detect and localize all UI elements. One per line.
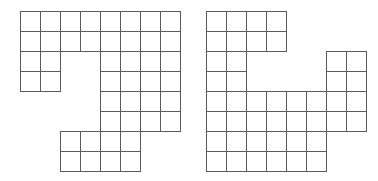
grid-cell — [247, 112, 267, 132]
grid-cell — [41, 32, 61, 52]
grid-cell — [347, 72, 367, 92]
grid-cell — [227, 132, 247, 152]
grid-cell — [141, 52, 161, 72]
grid-cell — [287, 152, 307, 172]
grid-cell — [307, 92, 327, 112]
grid-cell — [41, 12, 61, 32]
grid-cell — [21, 32, 41, 52]
grid-cell — [121, 72, 141, 92]
grid-cell — [267, 12, 287, 32]
grid-cell — [121, 12, 141, 32]
left-shape-grid — [20, 11, 181, 172]
grid-cell — [267, 112, 287, 132]
grid-cell — [207, 72, 227, 92]
grid-cell — [121, 32, 141, 52]
grid-cell — [267, 32, 287, 52]
grid-cell — [101, 72, 121, 92]
grid-cell — [227, 72, 247, 92]
grid-cell — [81, 132, 101, 152]
grid-cell — [247, 92, 267, 112]
grid-cell — [227, 92, 247, 112]
grid-cell — [227, 112, 247, 132]
grid-cell — [161, 52, 181, 72]
grid-cell — [101, 132, 121, 152]
grid-cell — [141, 72, 161, 92]
grid-cell — [287, 112, 307, 132]
grid-cell — [81, 32, 101, 52]
grid-cell — [41, 52, 61, 72]
grid-cell — [161, 32, 181, 52]
grid-cell — [121, 152, 141, 172]
grid-cell — [227, 12, 247, 32]
grid-cell — [227, 152, 247, 172]
grid-cell — [61, 12, 81, 32]
grid-cell — [287, 132, 307, 152]
grid-cell — [207, 152, 227, 172]
grid-cell — [307, 152, 327, 172]
grid-cell — [141, 92, 161, 112]
grid-cell — [101, 12, 121, 32]
grid-cell — [21, 12, 41, 32]
grid-cell — [207, 92, 227, 112]
grid-cell — [327, 92, 347, 112]
grid-cell — [247, 152, 267, 172]
grid-cell — [61, 152, 81, 172]
grid-cell — [327, 112, 347, 132]
grid-cell — [207, 32, 227, 52]
grid-cell — [327, 52, 347, 72]
grid-cell — [141, 32, 161, 52]
grid-cell — [101, 112, 121, 132]
grid-cell — [267, 152, 287, 172]
grid-cell — [307, 132, 327, 152]
grid-cell — [101, 52, 121, 72]
grid-cell — [121, 112, 141, 132]
right-shape-grid — [206, 11, 367, 172]
grid-cell — [207, 52, 227, 72]
grid-cell — [207, 12, 227, 32]
grid-cell — [121, 52, 141, 72]
grid-cell — [61, 132, 81, 152]
grid-cell — [141, 112, 161, 132]
grid-cell — [161, 72, 181, 92]
grid-cell — [207, 132, 227, 152]
left-shape — [20, 11, 181, 172]
grid-cell — [121, 92, 141, 112]
grid-cell — [81, 152, 101, 172]
grid-cell — [227, 32, 247, 52]
grid-cell — [101, 32, 121, 52]
grid-cell — [101, 152, 121, 172]
grid-cell — [267, 132, 287, 152]
grid-cell — [161, 112, 181, 132]
grid-cell — [347, 52, 367, 72]
grid-cell — [21, 72, 41, 92]
grid-cell — [247, 32, 267, 52]
grid-cell — [307, 112, 327, 132]
grid-cell — [41, 72, 61, 92]
figure-canvas — [0, 0, 378, 181]
grid-cell — [207, 112, 227, 132]
grid-cell — [327, 72, 347, 92]
grid-cell — [267, 92, 287, 112]
grid-cell — [81, 12, 101, 32]
grid-cell — [347, 112, 367, 132]
grid-cell — [161, 12, 181, 32]
grid-cell — [347, 92, 367, 112]
grid-cell — [141, 12, 161, 32]
grid-cell — [161, 92, 181, 112]
grid-cell — [61, 32, 81, 52]
grid-cell — [21, 52, 41, 72]
grid-cell — [121, 132, 141, 152]
grid-cell — [247, 132, 267, 152]
grid-cell — [287, 92, 307, 112]
grid-cell — [227, 52, 247, 72]
grid-cell — [101, 92, 121, 112]
right-shape — [206, 11, 367, 172]
grid-cell — [247, 12, 267, 32]
